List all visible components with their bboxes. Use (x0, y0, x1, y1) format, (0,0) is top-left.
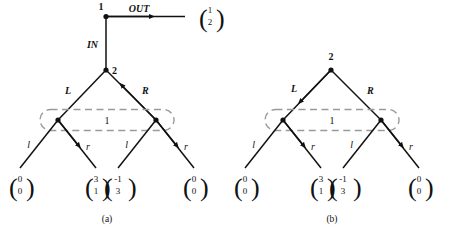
leaf-vector-b-2: ( -1 3 ) (329, 173, 362, 202)
figure-container: 1 2 OUT IN L R 1 l r l r (0, 0, 449, 232)
vector-paren-right: ) (425, 173, 434, 202)
vector-bottom-value: 1 (319, 186, 324, 196)
vector-paren-left: ( (183, 173, 192, 202)
out-vector-a: ( 1 2 ) (199, 4, 225, 33)
edge-r2-label-b: r (409, 141, 413, 152)
vector-paren-right: ) (251, 173, 260, 202)
node-root-dot (103, 14, 108, 19)
leaf-vector-b-0: ( 0 0 ) (234, 173, 260, 202)
vector-paren-left: ( (9, 173, 18, 202)
leaf-vector-b-3: ( 0 0 ) (408, 173, 434, 202)
node-inner-label: 2 (112, 65, 117, 76)
edge-l2-line-b (343, 120, 381, 168)
vector-paren-left: ( (329, 173, 338, 202)
vector-top-value: -1 (339, 174, 347, 184)
node-right-dot-b (378, 117, 383, 122)
vector-top-value: -1 (114, 174, 122, 184)
edge-l1-label: l (27, 139, 30, 150)
node-inner-label-b: 2 (329, 51, 334, 62)
leaf-vector-a-0: ( 0 0 ) (9, 173, 35, 202)
diagram-svg: 1 2 OUT IN L R 1 l r l r (0, 0, 449, 232)
vector-top-value: 0 (18, 174, 23, 184)
node-right-dot (153, 117, 158, 122)
edge-r1-label-b: r (311, 141, 315, 152)
leaf-vector-a-2: ( -1 3 ) (104, 173, 137, 202)
hyperedge-box-label-b: 1 (330, 115, 335, 126)
edge-r1-arrow-b (283, 120, 304, 146)
panel-b: 2 L R 1 l r l r (245, 51, 419, 168)
vector-top-value: 3 (94, 174, 99, 184)
hyperedge-box-label: 1 (105, 115, 110, 126)
vector-paren-right: ) (216, 4, 225, 33)
edge-l2-line (118, 120, 156, 168)
node-inner-dot-b (328, 67, 333, 72)
edge-l2-label-b: l (350, 139, 353, 150)
edge-l1-label-b: l (252, 139, 255, 150)
node-left-dot (55, 117, 60, 122)
edge-R-arrow (122, 85, 157, 120)
vector-paren-right: ) (128, 173, 137, 202)
vector-top-value: 3 (319, 174, 324, 184)
edge-r1-label: r (86, 141, 90, 152)
vector-bottom-value: 0 (417, 186, 422, 196)
vector-paren-left: ( (234, 173, 243, 202)
vector-bottom-value: 3 (341, 186, 346, 196)
vector-bottom-value: 0 (192, 186, 197, 196)
edge-L-arrow-b (300, 70, 331, 102)
vector-top-value: 0 (192, 174, 197, 184)
edge-R-label: R (141, 85, 149, 96)
vector-paren-left: ( (310, 173, 319, 202)
vector-paren-right: ) (200, 173, 209, 202)
vector-paren-left: ( (408, 173, 417, 202)
vector-top-value: 0 (243, 174, 248, 184)
edge-l1-line (20, 120, 58, 168)
edge-r1-arrow (58, 120, 79, 146)
edge-L-label: L (64, 85, 71, 96)
vector-paren-left: ( (104, 173, 113, 202)
vector-bottom-value: 0 (243, 186, 248, 196)
edge-in-label: IN (86, 39, 99, 50)
vector-bottom-value: 2 (208, 17, 213, 27)
vector-bottom-value: 3 (116, 186, 121, 196)
node-left-dot-b (280, 117, 285, 122)
edge-r2-label: r (184, 141, 188, 152)
vector-paren-right: ) (353, 173, 362, 202)
panel-a: 1 2 OUT IN L R 1 l r l r (20, 1, 194, 168)
edge-l1-line-b (245, 120, 283, 168)
vector-paren-left: ( (85, 173, 94, 202)
node-inner-dot (103, 67, 108, 72)
vector-top-value: 1 (208, 5, 213, 15)
edge-R-label-b: R (366, 85, 374, 96)
vector-bottom-value: 1 (94, 186, 99, 196)
caption-a: (a) (102, 214, 113, 225)
vector-paren-right: ) (26, 173, 35, 202)
caption-b: (b) (326, 214, 337, 225)
edge-out-label: OUT (129, 3, 150, 14)
edge-L-label-b: L (290, 83, 297, 94)
vector-paren-left: ( (199, 4, 208, 33)
edge-l2-label: l (125, 139, 128, 150)
vector-bottom-value: 0 (18, 186, 23, 196)
leaf-vector-a-3: ( 0 0 ) (183, 173, 209, 202)
node-root-label: 1 (99, 1, 104, 12)
vector-top-value: 0 (417, 174, 422, 184)
